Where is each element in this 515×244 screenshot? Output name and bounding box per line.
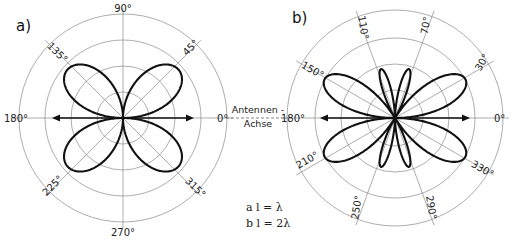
angle-labels-a: 90° 270° 0° 180° 45° 135° 225° 315° bbox=[4, 3, 228, 238]
arrow-right-icon bbox=[186, 115, 194, 122]
legend: a l = λ b l = 2λ bbox=[246, 201, 290, 230]
arrow-left-icon bbox=[320, 115, 328, 122]
angle-label-0: 0° bbox=[217, 113, 228, 124]
angle-label-180: 180° bbox=[281, 113, 305, 124]
angle-label-180: 180° bbox=[4, 113, 28, 124]
angle-label-330: 330° bbox=[470, 158, 496, 180]
angle-label-30: 30° bbox=[473, 52, 491, 73]
angle-label-290: 290° bbox=[424, 195, 439, 221]
axis-label-line1: Antennen - bbox=[232, 104, 284, 115]
angle-label-0: 0° bbox=[494, 113, 505, 124]
angle-label-70: 70° bbox=[419, 16, 433, 35]
panel-label-b: b) bbox=[292, 9, 307, 27]
axis-label-line2: Achse bbox=[244, 118, 273, 129]
angle-label-250: 250° bbox=[349, 195, 364, 221]
polar-chart-b: b) 0° 30° 70° 110° 150° 180° 210° 250° 2… bbox=[281, 9, 509, 226]
legend-a: a l = λ bbox=[246, 201, 283, 214]
angle-label-150: 150° bbox=[300, 59, 326, 81]
arrow-left-icon bbox=[52, 115, 60, 122]
arrow-right-icon bbox=[462, 115, 470, 122]
polar-chart-a: a) 90° 270° 0° 180° 45° 135° 225° 315° bbox=[4, 3, 233, 238]
legend-b: b l = 2λ bbox=[246, 217, 290, 230]
panel-label-a: a) bbox=[16, 17, 31, 35]
angle-label-270: 270° bbox=[111, 227, 135, 238]
antenna-radiation-diagram: a) 90° 270° 0° 180° 45° 135° 225° 315° A… bbox=[0, 0, 515, 244]
angle-label-315: 315° bbox=[183, 175, 208, 200]
angle-label-210: 210° bbox=[294, 149, 320, 171]
angle-label-110: 110° bbox=[356, 15, 371, 41]
angle-label-90: 90° bbox=[114, 3, 132, 14]
angle-label-45: 45° bbox=[180, 37, 200, 57]
